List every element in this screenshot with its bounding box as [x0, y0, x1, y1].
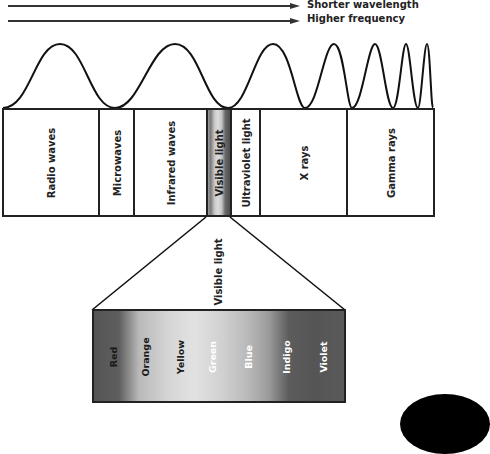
color-label-blue: Blue	[243, 345, 254, 369]
color-label-orange: Orange	[140, 337, 151, 376]
color-label-indigo: Indigo	[281, 340, 292, 374]
color-label-red: Red	[108, 347, 119, 368]
color-label-violet: Violet	[318, 341, 329, 372]
color-label-green: Green	[207, 341, 218, 373]
color-label-yellow: Yellow	[175, 340, 186, 374]
corner-decoration	[400, 394, 490, 454]
visible-spectrum	[92, 309, 346, 403]
visible-light-zoom-label: Visible light	[213, 238, 224, 305]
